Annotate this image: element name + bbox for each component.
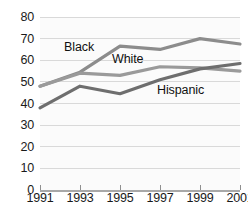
series-line-white (40, 67, 240, 86)
line-chart: 01020304050607080 1991199319951997199920… (0, 0, 248, 210)
series-label-hispanic: Hispanic (157, 84, 204, 97)
series-label-white: White (112, 53, 143, 66)
x-tick-label: 2001 (218, 192, 248, 205)
x-tick-label: 1995 (98, 192, 142, 205)
x-tick-label: 1991 (18, 192, 62, 205)
y-tick-label: 30 (0, 119, 34, 132)
x-tick-label: 1993 (58, 192, 102, 205)
y-tick-label: 10 (0, 162, 34, 175)
y-tick-label: 50 (0, 76, 34, 89)
x-tick-label: 1997 (138, 192, 182, 205)
x-tick-mark (240, 185, 241, 190)
series-label-black: Black (64, 41, 94, 54)
x-tick-label: 1999 (178, 192, 222, 205)
y-tick-label: 70 (0, 33, 34, 46)
y-tick-label: 20 (0, 141, 34, 154)
y-tick-label: 40 (0, 98, 34, 111)
y-tick-label: 60 (0, 54, 34, 67)
y-tick-label: 80 (0, 11, 34, 24)
